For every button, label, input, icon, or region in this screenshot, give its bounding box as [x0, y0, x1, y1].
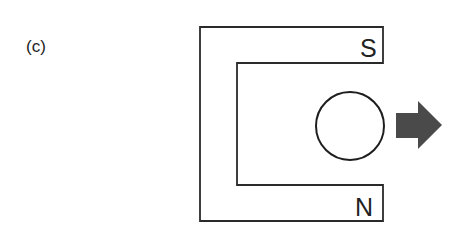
- conductor-circle: [316, 92, 384, 160]
- magnet-diagram: (c) S N: [0, 0, 470, 228]
- motion-arrow-icon: [396, 101, 442, 149]
- north-pole-label: N: [355, 193, 373, 221]
- panel-label: (c): [26, 37, 46, 56]
- south-pole-label: S: [360, 34, 377, 62]
